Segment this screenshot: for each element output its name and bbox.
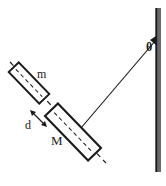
gap-arrow xyxy=(30,110,47,127)
diagram-canvas xyxy=(0,0,166,186)
string xyxy=(81,36,156,128)
label-angle-theta: θ xyxy=(146,41,152,53)
vertical-wall xyxy=(157,8,161,172)
block-M xyxy=(45,103,101,160)
label-large-block-M: M xyxy=(51,134,63,147)
label-small-block-m: m xyxy=(37,68,46,80)
physics-diagram: m M d θ xyxy=(0,0,166,186)
label-gap-d: d xyxy=(25,119,31,131)
